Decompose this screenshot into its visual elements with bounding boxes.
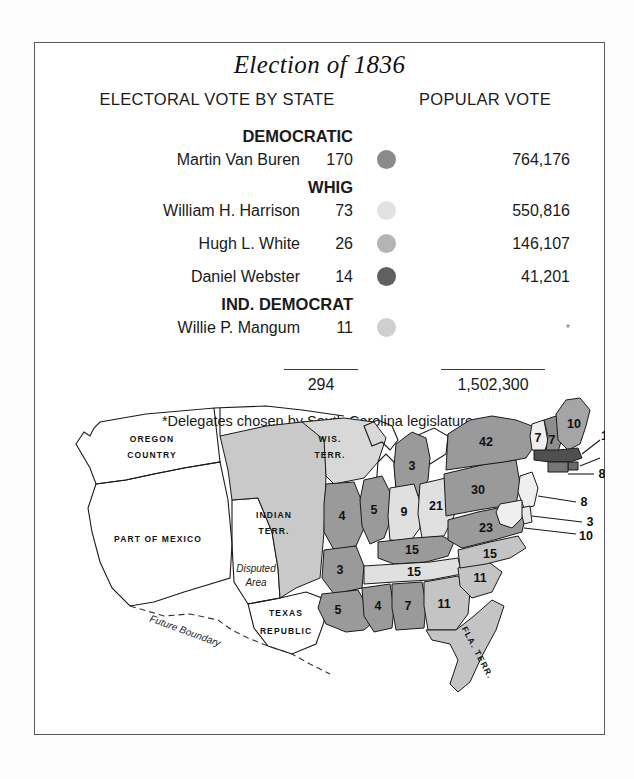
results-table: DEMOCRATIC Martin Van Buren 170 764,176 … [35, 121, 604, 340]
candidate-popular-vote: 550,816 [419, 198, 606, 223]
candidate-popular-vote: 764,176 [419, 147, 606, 172]
map-vote-delaware: 3 [587, 515, 594, 529]
map-vote-south-carolina: 11 [473, 571, 486, 585]
label-indian-terr-line2: TERR. [259, 526, 290, 536]
label-oregon-country-line1: OREGON [130, 434, 174, 444]
map-vote-new-jersey: 8 [581, 495, 588, 509]
candidate-name: Hugh L. White [35, 223, 312, 256]
page-title: Election of 1836 [35, 51, 604, 79]
party-label-whig: WHIG [35, 172, 353, 198]
candidate-popular-vote: 41,201 [419, 256, 606, 289]
party-heading-row: IND. DEMOCRAT [35, 289, 606, 315]
map-vote-virginia: 23 [479, 521, 493, 535]
candidate-color-swatch [353, 147, 419, 172]
candidate-name: Daniel Webster [35, 256, 312, 289]
leader-line-rhode-island [580, 458, 600, 466]
label-texas-republic-line1: TEXAS [269, 608, 303, 618]
totals-rule-popular [441, 369, 545, 370]
state-connecticut [548, 462, 568, 472]
candidate-electoral-vote: 170 [312, 147, 353, 172]
map-vote-vermont: 7 [535, 431, 542, 445]
party-heading-row: WHIG [35, 172, 606, 198]
map-vote-michigan: 3 [409, 459, 416, 473]
table-row: Willie P. Mangum 11 * [35, 315, 606, 340]
label-part-of-mexico: PART OF MEXICO [114, 534, 202, 544]
label-wis-terr-line2: TERR. [315, 450, 346, 460]
leader-line-maryland [524, 528, 576, 534]
map-vote-north-carolina: 15 [483, 547, 497, 561]
party-label-ind-democrat: IND. DEMOCRAT [35, 289, 353, 315]
table-row: William H. Harrison 73 550,816 [35, 198, 606, 223]
column-header-popular: POPULAR VOTE [387, 90, 583, 109]
map-vote-maryland: 10 [579, 529, 593, 543]
candidate-popular-vote: 146,107 [419, 223, 606, 256]
map-vote-connecticut: 8 [599, 467, 605, 481]
label-wis-terr-line1: WIS. [319, 434, 342, 444]
state-rhode-island [568, 462, 578, 470]
candidate-color-swatch [353, 315, 419, 340]
candidate-color-swatch [353, 198, 419, 223]
candidate-electoral-vote: 11 [312, 315, 353, 340]
party-label-democratic: DEMOCRATIC [35, 121, 353, 147]
map-vote-illinois: 5 [371, 503, 378, 517]
map-vote-alabama: 7 [405, 599, 412, 613]
map-vote-missouri: 4 [339, 509, 346, 523]
table-row: Martin Van Buren 170 764,176 [35, 147, 606, 172]
region-texas-republic [248, 592, 324, 654]
candidate-electoral-vote: 73 [312, 198, 353, 223]
table-row: Hugh L. White 26 146,107 [35, 223, 606, 256]
map-vote-maine: 10 [567, 417, 581, 431]
label-oregon-country-line2: COUNTRY [127, 450, 176, 460]
label-indian-terr-line1: INDIAN [256, 510, 292, 520]
column-header-electoral: ELECTORAL VOTE BY STATE [67, 90, 367, 109]
map-vote-indiana: 9 [401, 505, 408, 519]
electoral-map: OREGON COUNTRY PART OF MEXICO INDIAN TER… [34, 392, 605, 735]
map-vote-georgia: 11 [437, 597, 450, 611]
candidate-electoral-vote: 14 [312, 256, 353, 289]
label-texas-republic-line2: REPUBLIC [260, 626, 312, 636]
candidate-electoral-vote: 26 [312, 223, 353, 256]
leader-line-delaware [532, 516, 582, 522]
map-vote-pennsylvania: 30 [471, 483, 485, 497]
candidate-color-swatch [353, 223, 419, 256]
candidate-name: William H. Harrison [35, 198, 312, 223]
label-disputed-area-line1: Disputed [236, 563, 276, 574]
party-heading-row: DEMOCRATIC [35, 121, 606, 147]
map-vote-new-york: 42 [479, 435, 493, 449]
map-vote-new-hampshire: 7 [549, 433, 556, 447]
map-vote-ohio: 21 [429, 499, 443, 513]
map-vote-massachusetts: 14 [601, 429, 605, 443]
leader-line-massachusetts [582, 440, 600, 454]
map-vote-louisiana: 5 [335, 603, 342, 617]
candidate-name: Willie P. Mangum [35, 315, 312, 340]
candidate-color-swatch [353, 256, 419, 289]
map-vote-tennessee: 15 [407, 565, 421, 579]
candidate-popular-vote: * [419, 315, 606, 340]
leader-line-new-jersey [538, 496, 576, 502]
map-vote-kentucky: 15 [405, 543, 419, 557]
region-oregon-country [76, 408, 220, 484]
label-disputed-area-line2: Area [244, 577, 267, 588]
map-vote-mississippi: 4 [375, 599, 382, 613]
state-massachusetts [534, 448, 582, 462]
map-vote-arkansas: 3 [337, 563, 344, 577]
map-top-edge [214, 406, 344, 416]
table-row: Daniel Webster 14 41,201 [35, 256, 606, 289]
candidate-name: Martin Van Buren [35, 147, 312, 172]
totals-rule-electoral [284, 369, 358, 370]
